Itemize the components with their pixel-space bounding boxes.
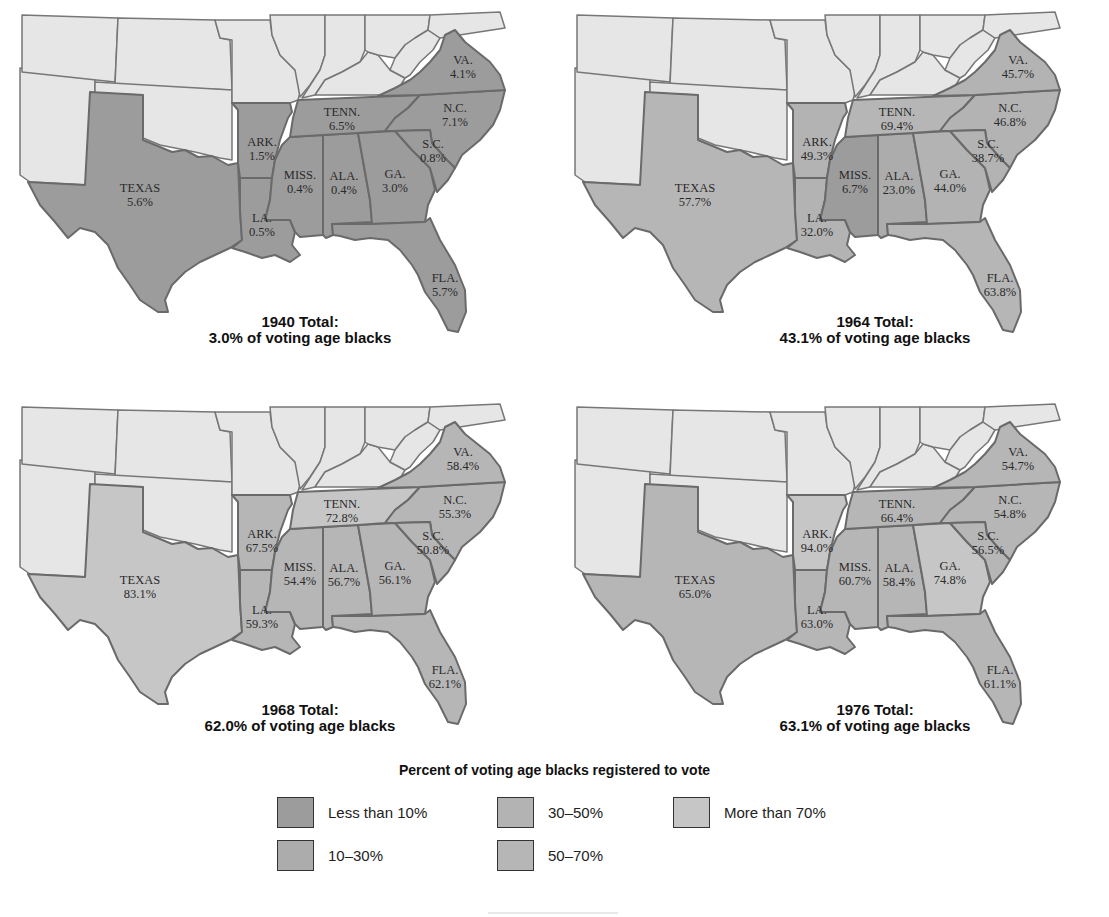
svg-text:N.C.54.8%: N.C.54.8% (994, 493, 1026, 521)
southern-states-map: TEXAS83.1% ARK.67.5% LA.59.3% MISS.54.4%… (0, 392, 555, 752)
map-caption: 1976 Total: 63.1% of voting age blacks (715, 702, 1035, 734)
legend-title: Percent of voting age blacks registered … (0, 762, 1109, 778)
map-panel-1976: TEXAS65.0% ARK.94.0% LA.63.0% MISS.60.7%… (555, 392, 1109, 752)
svg-text:ALA.23.0%: ALA.23.0% (883, 169, 915, 197)
legend-item-30to50: 30–50% (497, 797, 603, 828)
caption-total: 62.0% of voting age blacks (140, 718, 460, 734)
svg-text:N.C.46.8%: N.C.46.8% (994, 101, 1026, 129)
svg-text:TENN.66.4%: TENN.66.4% (879, 497, 915, 525)
caption-total: 43.1% of voting age blacks (715, 330, 1035, 346)
legend-swatch (277, 797, 314, 828)
svg-text:FLA.63.8%: FLA.63.8% (984, 271, 1016, 299)
southern-states-map: TEXAS5.6% ARK.1.5% LA.0.5% MISS.0.4% ALA… (0, 0, 555, 360)
legend-swatch (497, 840, 534, 871)
legend-label: 30–50% (548, 804, 603, 821)
map-panel-1964: TEXAS57.7% ARK.49.3% LA.32.0% MISS.6.7% … (555, 0, 1109, 360)
map-caption: 1968 Total: 62.0% of voting age blacks (140, 702, 460, 734)
svg-text:MISS.60.7%: MISS.60.7% (839, 560, 871, 588)
caption-total: 3.0% of voting age blacks (140, 330, 460, 346)
svg-text:ALA.58.4%: ALA.58.4% (883, 561, 915, 589)
legend-swatch (497, 797, 534, 828)
caption-total: 63.1% of voting age blacks (715, 718, 1035, 734)
legend-label: 10–30% (328, 847, 383, 864)
divider (488, 912, 618, 914)
legend-label: 50–70% (548, 847, 603, 864)
legend-label: Less than 10% (328, 804, 427, 821)
svg-text:FLA.5.7%: FLA.5.7% (432, 271, 459, 299)
svg-text:FLA.61.1%: FLA.61.1% (984, 663, 1016, 691)
caption-title: 1964 Total: (715, 314, 1035, 330)
map-panel-1940: TEXAS5.6% ARK.1.5% LA.0.5% MISS.0.4% ALA… (0, 0, 555, 360)
legend-swatch (277, 840, 314, 871)
svg-text:FLA.62.1%: FLA.62.1% (429, 663, 461, 691)
svg-text:GA.3.0%: GA.3.0% (382, 167, 408, 195)
svg-text:MISS.0.4%: MISS.0.4% (284, 168, 316, 196)
svg-text:ARK.49.3%: ARK.49.3% (801, 135, 833, 163)
svg-text:TENN.69.4%: TENN.69.4% (879, 105, 915, 133)
svg-text:TEXAS57.7%: TEXAS57.7% (675, 181, 715, 209)
svg-text:N.C.55.3%: N.C.55.3% (439, 493, 471, 521)
legend-item-50to70: 50–70% (497, 840, 603, 871)
svg-text:TENN.6.5%: TENN.6.5% (324, 105, 360, 133)
svg-text:MISS.6.7%: MISS.6.7% (839, 168, 871, 196)
svg-text:VA.4.1%: VA.4.1% (450, 53, 476, 81)
svg-text:MISS.54.4%: MISS.54.4% (284, 560, 316, 588)
svg-text:TEXAS65.0%: TEXAS65.0% (675, 573, 715, 601)
svg-text:S.C.0.8%: S.C.0.8% (420, 137, 446, 165)
svg-text:ARK.67.5%: ARK.67.5% (246, 527, 278, 555)
svg-text:TENN.72.8%: TENN.72.8% (324, 497, 360, 525)
caption-title: 1976 Total: (715, 702, 1035, 718)
southern-states-map: TEXAS57.7% ARK.49.3% LA.32.0% MISS.6.7% … (555, 0, 1109, 360)
legend-item-10to30: 10–30% (277, 840, 383, 871)
legend-swatch (673, 797, 710, 828)
legend-item-lt10: Less than 10% (277, 797, 427, 828)
map-caption: 1940 Total: 3.0% of voting age blacks (140, 314, 460, 346)
legend-label: More than 70% (724, 804, 826, 821)
southern-states-map: TEXAS65.0% ARK.94.0% LA.63.0% MISS.60.7%… (555, 392, 1109, 752)
caption-title: 1940 Total: (140, 314, 460, 330)
svg-text:ALA.56.7%: ALA.56.7% (328, 561, 360, 589)
map-panel-1968: TEXAS83.1% ARK.67.5% LA.59.3% MISS.54.4%… (0, 392, 555, 752)
svg-text:ARK.94.0%: ARK.94.0% (801, 527, 833, 555)
svg-text:LA.0.5%: LA.0.5% (249, 211, 275, 239)
map-caption: 1964 Total: 43.1% of voting age blacks (715, 314, 1035, 346)
legend-item-gt70: More than 70% (673, 797, 826, 828)
svg-text:TEXAS83.1%: TEXAS83.1% (120, 573, 160, 601)
svg-text:ALA.0.4%: ALA.0.4% (330, 169, 359, 197)
svg-text:ARK.1.5%: ARK.1.5% (247, 135, 277, 163)
svg-text:N.C.7.1%: N.C.7.1% (442, 101, 468, 129)
caption-title: 1968 Total: (140, 702, 460, 718)
